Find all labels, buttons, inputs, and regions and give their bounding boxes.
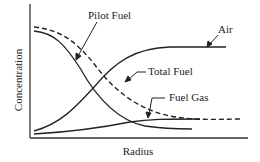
- series-total-fuel: [34, 27, 242, 119]
- series-pilot-fuel: [34, 31, 192, 129]
- annotation-arrows: [76, 22, 218, 118]
- series-fuel-gas: [34, 119, 200, 134]
- label-air: Air: [218, 23, 233, 35]
- y-axis-label: Concentration: [12, 48, 24, 111]
- label-fuel-gas: Fuel Gas: [169, 91, 208, 103]
- x-axis-label: Radius: [123, 145, 154, 157]
- label-pilot-fuel: Pilot Fuel: [88, 9, 131, 21]
- label-total-fuel: Total Fuel: [148, 65, 193, 77]
- chart: Pilot Fuel Air Total Fuel Fuel Gas Radiu…: [0, 0, 260, 162]
